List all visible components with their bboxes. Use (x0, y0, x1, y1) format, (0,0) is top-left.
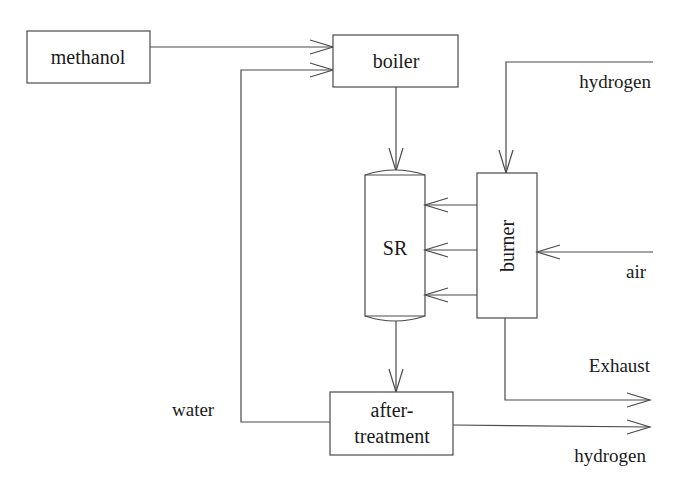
sr-label: SR (383, 237, 408, 259)
burner-to-sr-arrow-1 (425, 198, 477, 212)
methanol-to-boiler-arrow (150, 40, 333, 54)
boiler-node: boiler (333, 35, 458, 87)
air-label: air (626, 261, 647, 282)
methanol-label: methanol (51, 46, 126, 68)
boiler-to-sr-arrow (389, 87, 403, 171)
process-flow-diagram: methanol boiler hydrogen SR burner (0, 0, 677, 490)
methanol-node: methanol (27, 31, 150, 83)
water-label: water (172, 399, 215, 420)
aftertreatment-to-hydrogen-out-arrow (453, 420, 650, 434)
aftertreatment-label-line2: treatment (354, 425, 430, 447)
aftertreatment-label-line1: after- (371, 399, 414, 421)
hydrogen-in-label: hydrogen (579, 71, 651, 92)
burner-to-sr-arrow-3 (425, 288, 477, 302)
exhaust-label: Exhaust (589, 355, 651, 376)
hydrogen-out-label: hydrogen (574, 445, 646, 466)
air-to-burner-arrow (537, 245, 653, 259)
boiler-label: boiler (373, 50, 420, 72)
water-to-boiler-arrow (241, 63, 333, 422)
burner-node: burner (477, 173, 537, 318)
sr-node: SR (365, 170, 425, 321)
aftertreatment-node: after- treatment (330, 392, 453, 455)
burner-label: burner (496, 220, 518, 273)
sr-to-aftertreatment-arrow (389, 321, 403, 392)
burner-to-sr-arrow-2 (425, 243, 477, 257)
